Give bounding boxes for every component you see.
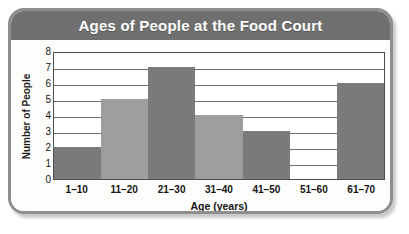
bar [243, 131, 290, 179]
bar [54, 147, 101, 179]
page-title: Ages of People at the Food Court [79, 17, 323, 34]
y-tick-label: 6 [37, 79, 51, 89]
bar [101, 99, 148, 179]
bar-slot [243, 53, 290, 179]
x-tick-label: 21–30 [148, 184, 195, 195]
y-tick-label: 2 [37, 143, 51, 153]
y-tick-label: 4 [37, 111, 51, 121]
y-axis-title: Number of People [19, 52, 35, 180]
chart-body: Number of People 876543210 1–1011–2021–3… [11, 40, 390, 211]
y-tick-label: 7 [37, 63, 51, 73]
x-tick-label: 41–50 [243, 184, 290, 195]
bars-layer [54, 53, 384, 179]
y-tick-label: 5 [37, 95, 51, 105]
x-tick-label: 1–10 [53, 184, 100, 195]
chart-title-bar: Ages of People at the Food Court [11, 11, 390, 40]
x-tick-label: 11–20 [100, 184, 147, 195]
plot-area [53, 52, 385, 180]
y-tick-label: 1 [37, 159, 51, 169]
x-axis-title: Age (years) [53, 200, 385, 212]
bar-slot [337, 53, 384, 179]
x-axis-tick-labels: 1–1011–2021–3031–4041–5051–6061–70 [53, 184, 385, 195]
x-tick-label: 51–60 [290, 184, 337, 195]
bar [195, 115, 242, 179]
y-axis-title-label: Number of People [22, 73, 33, 159]
x-tick-label: 31–40 [195, 184, 242, 195]
y-tick-label: 3 [37, 127, 51, 137]
figure-card: Ages of People at the Food Court Number … [8, 8, 393, 214]
x-tick-label: 61–70 [338, 184, 385, 195]
bar [337, 83, 384, 179]
y-axis-tick-labels: 876543210 [37, 52, 51, 180]
bar-slot [148, 53, 195, 179]
bar-slot [54, 53, 101, 179]
bar-slot [290, 53, 337, 179]
bar-slot [195, 53, 242, 179]
bar [148, 67, 195, 179]
bar-slot [101, 53, 148, 179]
y-tick-label: 8 [37, 47, 51, 57]
y-tick-label: 0 [37, 175, 51, 185]
